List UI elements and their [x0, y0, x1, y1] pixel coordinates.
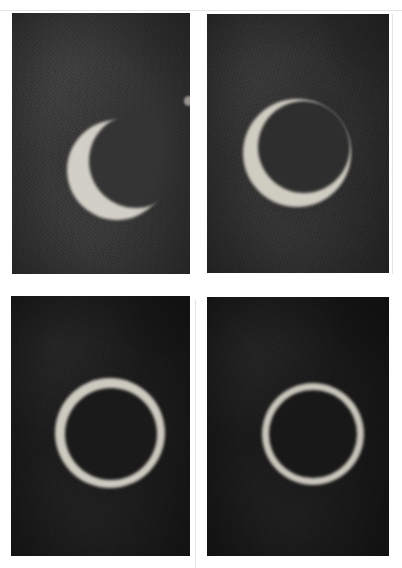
seam-vertical-right [392, 14, 393, 274]
panel-vignette [207, 14, 389, 273]
panel-bottom-right [207, 297, 389, 556]
seam-horizontal-top [0, 10, 402, 11]
panel-top-right [207, 14, 389, 273]
panel-bottom-left [11, 296, 190, 556]
panel-vignette [11, 296, 190, 556]
seam-vertical-gutter [195, 300, 196, 568]
panel-vignette [207, 297, 389, 556]
eclipse-photo-plate [0, 0, 402, 568]
panel-top-left [12, 13, 190, 274]
panel-vignette [12, 13, 190, 274]
